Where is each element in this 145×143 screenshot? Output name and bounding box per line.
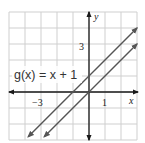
tick-label-neg3: −3 <box>32 97 43 108</box>
tick-label-3: 3 <box>79 41 84 52</box>
tick-label-1: 1 <box>102 97 107 108</box>
y-axis-label: y <box>93 11 99 22</box>
line-f-of-x <box>44 44 137 137</box>
coordinate-plane: y x 3 −3 1 g(x) = x + 1 <box>0 0 145 143</box>
function-label: g(x) = x + 1 <box>14 68 77 82</box>
x-axis-label: x <box>128 95 134 106</box>
